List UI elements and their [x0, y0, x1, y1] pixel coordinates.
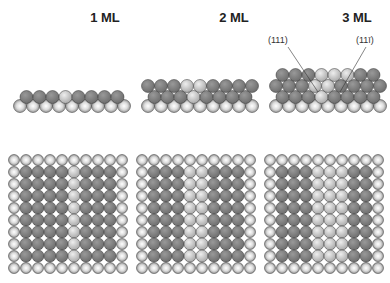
figure: 1 ML 2 ML 3 ML (111) (11ī) [0, 0, 390, 283]
atomic-structure-diagram [0, 0, 390, 283]
